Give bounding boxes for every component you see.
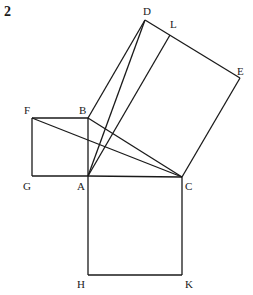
segment-EC [182,78,240,177]
point-label-B: B [79,104,86,116]
point-labels: ABCDEFGHKL [23,5,244,290]
segment-DE [145,20,240,78]
segment-AD [88,20,145,176]
point-label-L: L [170,18,177,30]
point-label-H: H [77,278,85,290]
segment-BC [88,118,182,177]
segment-AC [88,176,182,177]
point-label-E: E [237,65,244,77]
point-label-F: F [24,104,30,116]
point-label-C: C [185,180,192,192]
point-label-A: A [77,180,85,192]
segment-AL [88,35,170,176]
segments [32,20,240,275]
point-label-D: D [143,5,151,17]
point-label-G: G [23,180,31,192]
figure-number: 2 [4,4,11,19]
segment-BD [88,20,145,118]
point-label-K: K [185,278,193,290]
segment-FC [32,118,182,177]
pythagorean-proof-diagram: 2 ABCDEFGHKL [0,0,253,295]
